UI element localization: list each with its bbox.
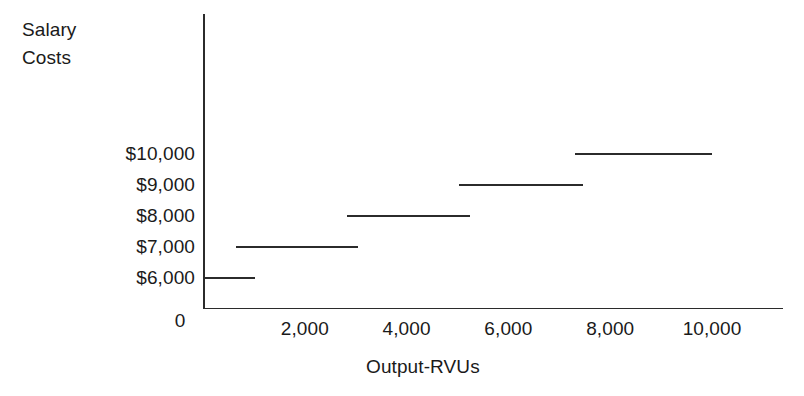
step-cost-chart: Salary Costs $10,000$9,000$8,000$7,000$6…	[0, 0, 804, 396]
step-segment	[347, 215, 470, 217]
step-segment	[203, 277, 255, 279]
step-segment	[575, 153, 712, 155]
step-segment	[459, 184, 583, 186]
x-axis-title: Output-RVUs	[366, 356, 480, 378]
step-segment	[236, 246, 358, 248]
step-function-series	[0, 0, 804, 396]
